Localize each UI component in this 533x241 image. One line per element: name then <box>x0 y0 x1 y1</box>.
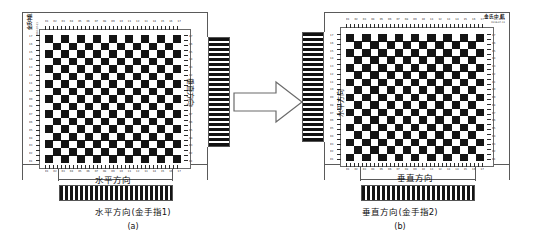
tick-label: 08 <box>29 105 35 108</box>
panel-a-ticklabels-left: 1716151413121110090807060504030201 <box>29 35 35 163</box>
tick-label: 03 <box>330 143 336 146</box>
tick-label: 01 <box>29 160 35 163</box>
panel-a-label: (a) <box>0 222 266 231</box>
tick-label: 17 <box>178 20 181 23</box>
panel-a: 0102030405060708091011121314151617 01020… <box>0 0 266 241</box>
tick-label: 04 <box>330 135 336 138</box>
tick-label: 13 <box>144 20 147 23</box>
tick-label: 14 <box>153 20 156 23</box>
tick-label: 09 <box>492 96 498 99</box>
tick-label: 11 <box>128 20 131 23</box>
tick-label: 11 <box>492 81 498 84</box>
tick-label: 15 <box>492 50 498 53</box>
panel-a-corner-micro: 2016-07-11 <box>36 22 39 36</box>
tick-label: 02 <box>492 150 498 153</box>
tick-label: 06 <box>330 119 336 122</box>
tick-label: 03 <box>492 143 498 146</box>
panel-b-ruler-bottom <box>346 163 484 167</box>
tick-label: 08 <box>492 104 498 107</box>
panel-a-corner-label-line1: 金氏中航 <box>27 20 32 30</box>
tick-label: 05 <box>492 127 498 130</box>
tick-label: 04 <box>70 20 73 23</box>
tick-label: 16 <box>169 20 172 23</box>
panel-b-notch-edge-right <box>509 165 510 180</box>
tick-label: 13 <box>29 66 35 69</box>
tick-label: 02 <box>330 150 336 153</box>
tick-label: 02 <box>189 152 195 155</box>
panel-b-bottom-direction-label: 垂直方向 <box>346 171 484 183</box>
panel-a-ruler-top <box>45 26 181 30</box>
panel-b: 0102030405060708091011121314151617 01020… <box>267 0 533 241</box>
tick-label: 12 <box>189 74 195 77</box>
tick-label: 01 <box>45 20 48 23</box>
panel-a-corner-label: 金氏中航 <box>25 22 35 50</box>
panel-b-side-direction-label: 水平方向 <box>335 89 345 117</box>
tick-label: 05 <box>380 18 383 21</box>
tick-label: 02 <box>29 152 35 155</box>
panel-a-connector-horizontal <box>59 185 173 201</box>
tick-label: 06 <box>388 18 391 21</box>
tick-label: 07 <box>189 113 195 116</box>
tick-label: 04 <box>371 18 374 21</box>
tick-label: 17 <box>492 34 498 37</box>
tick-label: 10 <box>120 20 123 23</box>
tick-label: 03 <box>189 144 195 147</box>
panel-b-caption: 垂直方向(金手指2) <box>267 205 533 217</box>
panel-a-notch-edge-left <box>22 165 23 180</box>
tick-label: 10 <box>422 18 425 21</box>
tick-label: 10 <box>492 88 498 91</box>
tick-label: 06 <box>189 121 195 124</box>
tick-label: 03 <box>62 20 65 23</box>
panel-a-bottom-direction-label: 水平方向 <box>45 173 181 185</box>
figure-root: 0102030405060708091011121314151617 01020… <box>0 0 533 241</box>
panel-a-connector-vertical <box>208 37 230 147</box>
panel-a-caption: 水平方向(金手指1) <box>0 205 266 217</box>
tick-label: 15 <box>189 51 195 54</box>
tick-label: 05 <box>29 129 35 132</box>
tick-label: 16 <box>189 43 195 46</box>
tick-label: 12 <box>29 74 35 77</box>
panel-b-notch-edge-left <box>324 165 325 180</box>
tick-label: 16 <box>330 42 336 45</box>
tick-label: 11 <box>430 18 433 21</box>
tick-label: 07 <box>95 20 98 23</box>
panel-a-notch-edge-right <box>207 165 208 180</box>
tick-label: 08 <box>103 20 106 23</box>
tick-label: 17 <box>330 34 336 37</box>
panel-b-ruler-right <box>487 34 491 161</box>
tick-label: 03 <box>363 18 366 21</box>
panel-a-ruler-bottom <box>45 165 181 169</box>
tick-label: 13 <box>330 65 336 68</box>
tick-label: 01 <box>346 18 349 21</box>
tick-label: 14 <box>29 58 35 61</box>
tick-label: 06 <box>86 20 89 23</box>
tick-label: 14 <box>330 57 336 60</box>
tick-label: 15 <box>29 51 35 54</box>
tick-label: 10 <box>29 90 35 93</box>
tick-label: 11 <box>29 82 35 85</box>
panel-a-side-direction-label: 垂直方向 <box>186 78 196 106</box>
panel-b-label: (b) <box>267 222 533 231</box>
tick-label: 11 <box>330 81 336 84</box>
panel-a-ruler-left <box>36 35 40 163</box>
tick-label: 15 <box>161 20 164 23</box>
tick-label: 07 <box>396 18 399 21</box>
tick-label: 04 <box>492 135 498 138</box>
tick-label: 01 <box>330 158 336 161</box>
tick-label: 05 <box>330 127 336 130</box>
tick-label: 06 <box>492 119 498 122</box>
panel-a-ticklabels-top: 0102030405060708091011121314151617 <box>45 20 181 23</box>
tick-label: 16 <box>492 42 498 45</box>
panel-b-titleblock: 金氏中航 XH-1024 2016-07-11 <box>449 14 505 25</box>
tick-label: 05 <box>78 20 81 23</box>
tick-label: 17 <box>189 35 195 38</box>
tick-label: 04 <box>189 137 195 140</box>
tick-label: 12 <box>492 73 498 76</box>
tick-label: 06 <box>29 121 35 124</box>
tick-label: 12 <box>330 73 336 76</box>
tick-label: 09 <box>111 20 114 23</box>
tick-label: 12 <box>438 18 441 21</box>
tick-label: 13 <box>492 65 498 68</box>
tick-label: 15 <box>330 50 336 53</box>
panel-a-checkerboard <box>45 35 181 163</box>
